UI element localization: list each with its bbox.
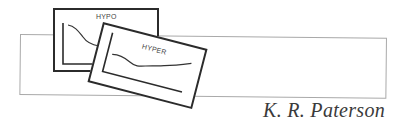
chapter-header-illustration: HYPO HYPER K. R. Paterson [0,0,411,131]
author-name: K. R. Paterson [263,99,385,122]
